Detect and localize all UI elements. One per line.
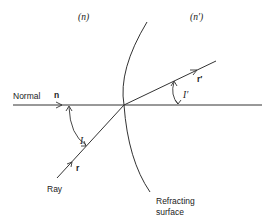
surface-label-line1: Refracting [156,196,195,206]
medium-left-label: (n) [78,12,89,23]
normal-label: Normal [13,91,41,101]
incident-vector-label: r [76,163,80,173]
refracted-vector-label: r′ [197,74,202,84]
refracting-surface-curve [123,22,150,192]
ray-label: Ray [47,184,63,194]
refraction-diagram: (n) (n′) Normal n I I′ r r′ Ray Refracti… [0,0,270,224]
normal-vector-label: n [54,90,59,100]
incident-ray [57,105,124,178]
medium-right-label: (n′) [190,12,203,23]
normal-line [13,102,262,108]
angle-i-prime-arc [171,81,181,104]
incident-angle-label: I [79,136,84,146]
surface-label-line2: surface [156,207,184,217]
refracted-angle-label: I′ [182,90,189,100]
